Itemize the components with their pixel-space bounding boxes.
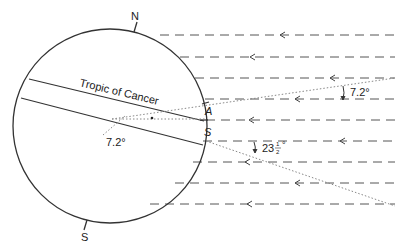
north-pole-tick: [134, 22, 137, 32]
lower-angle-den: 2: [276, 149, 280, 155]
arc-a-label: A: [204, 105, 212, 117]
tropic-of-cancer-label: Tropic of Cancer: [79, 76, 161, 107]
north-label: N: [131, 10, 139, 22]
arc-a-tick: [202, 102, 209, 104]
upper-angle-label: 7.2°: [350, 86, 370, 98]
lower-angle-deg: °: [282, 140, 286, 150]
center-dot: [151, 117, 154, 120]
earth-circle: [13, 29, 207, 223]
arc-s-label: S: [204, 126, 212, 138]
lower-angle-whole: 23: [262, 142, 274, 154]
center-angle-label: 7.2°: [106, 136, 126, 148]
lower-angle-num: 1: [276, 141, 280, 147]
south-pole-tick: [84, 220, 87, 230]
south-label: S: [81, 231, 88, 242]
angle-arrow-lower-icon: [253, 149, 257, 153]
diagram-canvas: N S Tropic of Cancer A S 7.2° 7.2° 23 1 …: [0, 0, 414, 242]
